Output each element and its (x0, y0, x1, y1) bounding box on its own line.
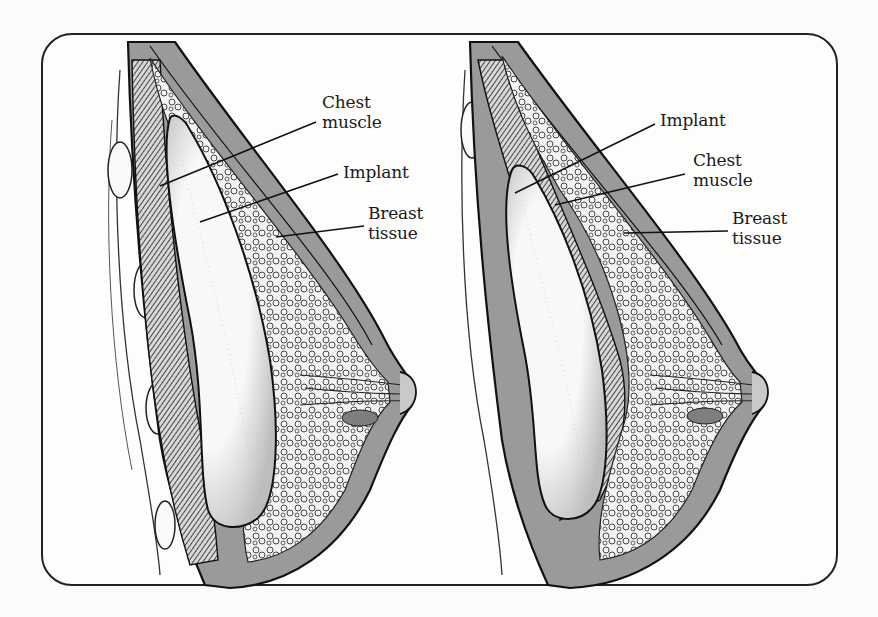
label-left-chest-muscle: Chest muscle (322, 92, 382, 132)
label-line: Implant (660, 110, 726, 130)
left-rib-1 (108, 142, 132, 198)
label-left-implant: Implant (343, 162, 409, 182)
label-line: tissue (732, 228, 787, 248)
label-line: Breast (368, 203, 423, 223)
label-line: Chest (693, 150, 753, 170)
breast-implant-diagram: Chest muscle Implant Breast tissue Impla… (0, 0, 878, 617)
label-line: muscle (693, 170, 753, 190)
label-left-breast-tissue: Breast tissue (368, 203, 423, 243)
label-right-chest-muscle: Chest muscle (693, 150, 753, 190)
label-line: Implant (343, 162, 409, 182)
left-rib-4 (155, 501, 175, 549)
label-right-implant: Implant (660, 110, 726, 130)
diagram-canvas (0, 0, 878, 617)
label-line: Chest (322, 92, 382, 112)
label-right-breast-tissue: Breast tissue (732, 208, 787, 248)
left-fat-lobe (342, 410, 378, 426)
label-line: muscle (322, 112, 382, 132)
label-line: Breast (732, 208, 787, 228)
right-fat-lobe (687, 408, 723, 424)
label-line: tissue (368, 223, 423, 243)
